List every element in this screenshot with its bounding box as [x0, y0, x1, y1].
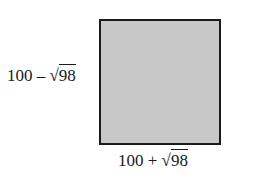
height-label-radicand: 98 [59, 64, 76, 85]
width-label-radicand: 98 [171, 149, 188, 170]
shaded-rectangle [99, 19, 221, 145]
radical-sign-icon: √ [50, 66, 59, 85]
height-label: 100 – √98 [7, 67, 76, 84]
height-label-base: 100 [7, 66, 33, 85]
width-label-radical: √98 [162, 152, 188, 169]
height-label-operator: – [37, 66, 46, 85]
width-label-base: 100 [118, 151, 144, 170]
height-label-radical: √98 [50, 67, 76, 84]
width-label-operator: + [148, 151, 158, 170]
width-label: 100 + √98 [118, 152, 188, 169]
radical-sign-icon: √ [162, 151, 171, 170]
